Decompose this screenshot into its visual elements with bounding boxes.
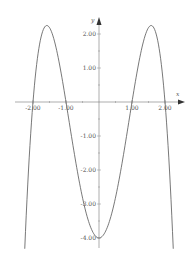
y-tick-label: 2.00 [83, 30, 97, 37]
x-tick-label: 1.00 [125, 104, 139, 111]
x-axis-arrow-icon [178, 100, 185, 105]
y-tick-label: -4.00 [81, 234, 97, 241]
function-plot: x y -2.00-1.001.002.002.001.00-1.00-2.00… [0, 0, 195, 260]
y-tick-label: -2.00 [81, 166, 97, 173]
y-tick-label: -1.00 [81, 132, 97, 139]
y-axis-arrow-icon [97, 17, 102, 25]
tick-labels: -2.00-1.001.002.002.001.00-1.00-2.00-3.0… [25, 30, 172, 241]
y-axis-label: y [90, 16, 95, 24]
y-tick-label: 1.00 [83, 64, 97, 71]
x-axis-label: x [176, 90, 180, 97]
